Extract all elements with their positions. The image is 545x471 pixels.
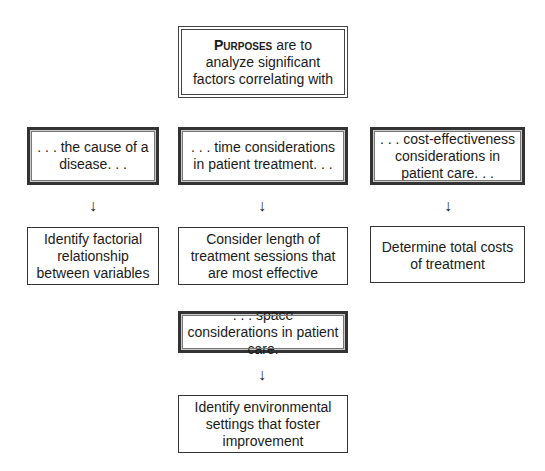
factor-label: . . . space considerations in patient ca…: [187, 307, 339, 358]
factor-label: . . . time considerations in patient tre…: [187, 139, 339, 173]
outcome-label: Consider length of treatment sessions th…: [185, 231, 341, 282]
outcome-box-session-length: Consider length of treatment sessions th…: [178, 227, 348, 285]
factor-box-cost: . . . cost-effectiveness considerations …: [370, 127, 525, 185]
purposes-text: Purposes are to analyze significant fact…: [188, 37, 338, 88]
factor-box-disease-cause: . . . the cause of a disease. . .: [27, 127, 159, 185]
purposes-heading: Purposes: [214, 37, 272, 53]
factor-label: . . . cost-effectiveness considerations …: [379, 131, 516, 182]
arrow-down-icon: ↓: [256, 367, 268, 383]
outcome-box-factorial-relationship: Identify factorial relationship between …: [27, 227, 159, 285]
outcome-label: Identify factorial relationship between …: [34, 231, 152, 282]
outcome-label: Identify environmental settings that fos…: [185, 399, 341, 450]
arrow-down-icon: ↓: [442, 198, 454, 214]
factor-label: . . . the cause of a disease. . .: [36, 139, 150, 173]
outcome-box-total-costs: Determine total costs of treatment: [370, 226, 525, 283]
factor-box-time: . . . time considerations in patient tre…: [178, 127, 348, 185]
outcome-label: Determine total costs of treatment: [377, 239, 518, 273]
arrow-down-icon: ↓: [87, 198, 99, 214]
outcome-box-environmental-settings: Identify environmental settings that fos…: [178, 395, 348, 453]
factor-box-space: . . . space considerations in patient ca…: [178, 311, 348, 353]
arrow-down-icon: ↓: [256, 198, 268, 214]
purposes-box: Purposes are to analyze significant fact…: [178, 26, 348, 98]
